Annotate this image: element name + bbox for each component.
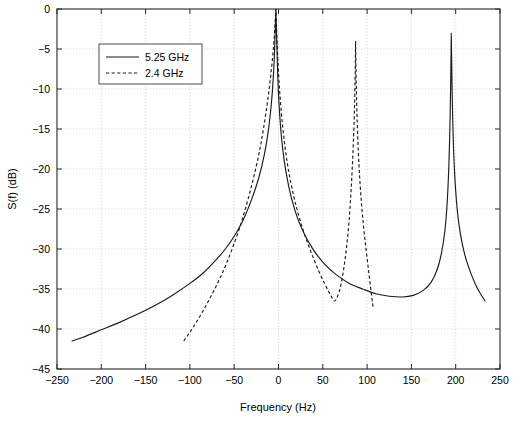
y-tick-label-2: −10 (32, 83, 50, 95)
legend-label-1: 2.4 GHz (145, 67, 184, 79)
x-tick-label-2: −150 (134, 374, 158, 386)
x-tick-label-3: −100 (178, 374, 202, 386)
y-tick-label-8: −40 (32, 323, 50, 335)
y-tick-label-5: −25 (32, 203, 50, 215)
x-tick-label-0: −250 (45, 374, 69, 386)
x-tick-label-6: 50 (317, 374, 329, 386)
y-tick-label-0: 0 (44, 3, 50, 15)
x-tick-label-8: 150 (403, 374, 421, 386)
figure-background (0, 0, 524, 423)
y-tick-label-9: −45 (32, 363, 50, 375)
y-tick-label-7: −35 (32, 283, 50, 295)
y-tick-label-3: −15 (32, 123, 50, 135)
legend-label-0: 5.25 GHz (145, 51, 189, 63)
x-axis-title: Frequency (Hz) (240, 401, 316, 413)
spectral-density-chart: −250−200−150−100−50050100150200250 0−5−1… (0, 0, 524, 423)
x-tick-label-1: −200 (89, 374, 113, 386)
legend: 5.25 GHz 2.4 GHz (99, 44, 202, 84)
y-tick-label-6: −30 (32, 243, 50, 255)
x-tick-label-5: 0 (276, 374, 282, 386)
y-tick-label-1: −5 (38, 43, 50, 55)
x-tick-label-7: 100 (358, 374, 376, 386)
x-tick-label-9: 200 (447, 374, 465, 386)
x-tick-label-10: 250 (491, 374, 509, 386)
x-tick-label-4: −50 (225, 374, 243, 386)
y-axis-title: S(f) (dB) (6, 168, 18, 210)
y-tick-label-4: −20 (32, 163, 50, 175)
